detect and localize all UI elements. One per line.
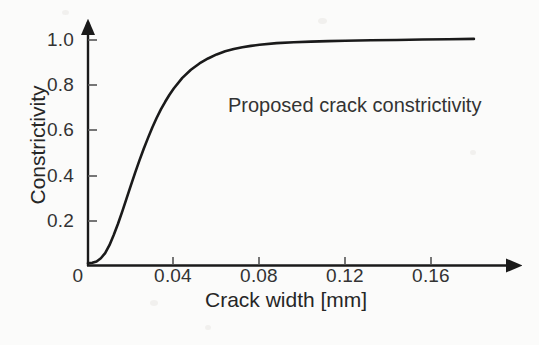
y-tick-label-1-0: 1.0: [18, 29, 74, 51]
curve-annotation: Proposed crack constrictivity: [228, 94, 481, 117]
x-tick-label-0: 0: [58, 265, 98, 287]
x-tick-label-0-04: 0.04: [141, 265, 205, 287]
y-tick-marks: [88, 40, 97, 221]
x-tick-label-0-12: 0.12: [313, 265, 377, 287]
chart-figure: 1.0 0.8 0.6 0.4 0.2 0 0.04 0.08 0.12 0.1…: [0, 0, 539, 345]
y-axis-title: Constrictivity: [26, 55, 50, 235]
constrictivity-curve: [88, 39, 474, 263]
x-tick-marks: [173, 257, 431, 265]
x-tick-label-0-08: 0.08: [227, 265, 291, 287]
x-axis-title: Crack width [mm]: [205, 288, 367, 312]
x-tick-label-0-16: 0.16: [399, 265, 463, 287]
